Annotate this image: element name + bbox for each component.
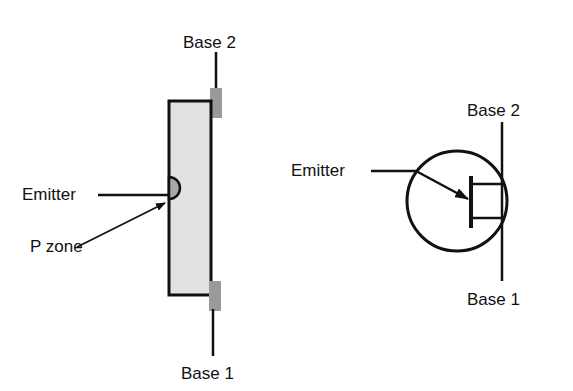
right-base2-label: Base 2 bbox=[467, 101, 520, 120]
left-base1-label: Base 1 bbox=[181, 364, 234, 383]
ujt-symbol: Base 2 Emitter Base 1 bbox=[291, 101, 520, 309]
left-emitter-label: Emitter bbox=[22, 185, 76, 204]
ujt-diagram: Base 2 Emitter P zone Base 1 Base 2 Emit… bbox=[0, 0, 573, 391]
right-emitter-label: Emitter bbox=[291, 161, 345, 180]
pzone-arrow bbox=[77, 203, 165, 247]
symbol-emitter-arrow bbox=[416, 171, 468, 199]
symbol-circle bbox=[407, 151, 507, 251]
left-base2-label: Base 2 bbox=[183, 33, 236, 52]
right-base1-label: Base 1 bbox=[467, 290, 520, 309]
ujt-structure: Base 2 Emitter P zone Base 1 bbox=[22, 33, 236, 383]
base1-contact bbox=[209, 281, 221, 311]
p-zone bbox=[169, 177, 180, 199]
left-pzone-label: P zone bbox=[30, 237, 83, 256]
